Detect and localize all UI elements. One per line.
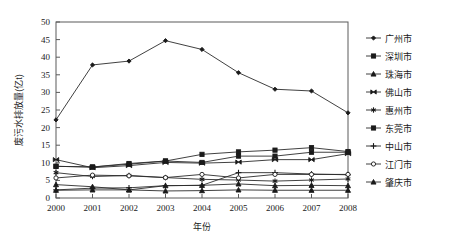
data-point-广州市-2006 — [273, 87, 277, 91]
legend-label: 广州市 — [385, 33, 412, 44]
legend-label: 东莞市 — [385, 123, 412, 134]
x-tick-label: 2005 — [230, 203, 249, 213]
legend-label: 肇庆市 — [385, 177, 412, 188]
data-point-东莞市-2002 — [127, 161, 131, 165]
y-tick-label: 45 — [41, 35, 51, 45]
legend-item-惠州市[interactable]: 惠州市 — [366, 105, 412, 116]
x-tick-label: 2004 — [193, 203, 212, 213]
x-tick-label: 2007 — [303, 203, 322, 213]
data-point-legend-江门市 — [371, 162, 375, 166]
data-point-江门市-2000 — [54, 176, 58, 180]
y-tick-label: 10 — [41, 158, 51, 168]
data-point-江门市-2005 — [236, 176, 240, 180]
data-point-珠海市-2003 — [163, 188, 168, 193]
data-point-深圳市-2007 — [309, 146, 313, 150]
data-point-江门市-2007 — [309, 172, 313, 176]
chart-figure: 05101520253035404550 2000200120022003200… — [0, 0, 453, 247]
data-point-东莞市-2000 — [54, 164, 58, 168]
legend-item-佛山市[interactable]: 佛山市 — [366, 87, 412, 98]
legend-item-江门市[interactable]: 江门市 — [366, 159, 412, 170]
y-tick-label: 50 — [41, 17, 51, 27]
data-point-肇庆市-2001 — [90, 184, 95, 189]
data-point-江门市-2006 — [273, 172, 277, 176]
legend-item-中山市[interactable]: 中山市 — [366, 141, 412, 152]
legend-label: 中山市 — [385, 141, 412, 152]
data-point-肇庆市-2007 — [309, 183, 314, 188]
x-tick-label: 2008 — [339, 203, 358, 213]
y-tick-label: 15 — [41, 140, 51, 150]
data-point-中山市-2005 — [236, 170, 242, 176]
x-tick-label: 2001 — [84, 203, 102, 213]
data-point-legend-东莞市 — [371, 126, 375, 130]
data-point-东莞市-2004 — [200, 160, 204, 164]
data-point-江门市-2003 — [163, 175, 167, 179]
y-tick-label: 25 — [41, 105, 51, 115]
data-point-广州市-2003 — [163, 39, 167, 43]
legend-item-广州市[interactable]: 广州市 — [366, 33, 412, 44]
legend-item-东莞市[interactable]: 东莞市 — [366, 123, 412, 134]
legend-item-深圳市[interactable]: 深圳市 — [366, 51, 412, 62]
series-深圳市 — [54, 146, 350, 170]
data-point-广州市-2007 — [309, 89, 313, 93]
data-point-肇庆市-2006 — [273, 183, 278, 188]
data-point-深圳市-2006 — [273, 148, 277, 152]
data-point-legend-中山市 — [371, 143, 377, 149]
data-point-珠海市-2005 — [236, 187, 241, 192]
data-point-东莞市-2001 — [90, 165, 94, 169]
legend-label: 佛山市 — [385, 87, 412, 98]
data-point-肇庆市-2004 — [200, 183, 205, 188]
series-line-广州市 — [56, 41, 348, 120]
data-point-肇庆市-2000 — [54, 182, 59, 187]
data-point-广州市-2008 — [346, 111, 350, 115]
y-axis-title: 废污水排放量(亿t) — [13, 74, 24, 146]
y-axis-ticks: 05101520253035404550 — [41, 17, 60, 203]
x-tick-label: 2000 — [47, 203, 66, 213]
data-point-江门市-2002 — [127, 174, 131, 178]
data-point-江门市-2001 — [90, 173, 94, 177]
data-point-佛山市-2007 — [309, 158, 314, 162]
y-tick-label: 30 — [41, 87, 51, 97]
data-point-江门市-2004 — [200, 172, 204, 176]
legend-label: 珠海市 — [385, 69, 412, 80]
data-point-东莞市-2007 — [309, 150, 313, 154]
data-point-legend-珠海市 — [371, 72, 376, 77]
data-point-珠海市-2004 — [200, 188, 205, 193]
data-point-东莞市-2008 — [346, 150, 350, 154]
y-tick-label: 40 — [41, 52, 51, 62]
data-point-深圳市-2004 — [200, 152, 204, 156]
series-广州市 — [54, 39, 350, 122]
x-tick-label: 2003 — [157, 203, 176, 213]
data-point-东莞市-2003 — [163, 159, 167, 163]
x-axis-ticks: 200020012002200320042005200620072008 — [47, 194, 358, 213]
data-series-group — [53, 39, 351, 194]
line-chart: 05101520253035404550 2000200120022003200… — [0, 0, 453, 247]
legend-label: 惠州市 — [385, 105, 412, 116]
data-point-肇庆市-2003 — [163, 183, 168, 188]
x-tick-label: 2002 — [120, 203, 138, 213]
data-point-广州市-2005 — [236, 71, 240, 75]
legend-item-肇庆市[interactable]: 肇庆市 — [366, 177, 412, 188]
legend-label: 江门市 — [385, 159, 412, 170]
data-point-珠海市-2006 — [273, 188, 278, 193]
data-point-佛山市-2005 — [236, 160, 241, 164]
data-point-广州市-2002 — [127, 59, 131, 63]
data-point-legend-肇庆市 — [371, 180, 376, 185]
x-tick-label: 2006 — [266, 203, 285, 213]
data-point-legend-深圳市 — [371, 54, 375, 58]
legend-label: 深圳市 — [385, 51, 412, 62]
data-point-肇庆市-2005 — [236, 181, 241, 186]
data-point-珠海市-2008 — [346, 188, 351, 193]
data-point-肇庆市-2008 — [346, 183, 351, 188]
y-tick-label: 35 — [41, 70, 51, 80]
y-tick-label: 20 — [41, 123, 51, 133]
data-point-东莞市-2006 — [273, 154, 277, 158]
data-point-深圳市-2005 — [236, 150, 240, 154]
x-axis-title: 年份 — [193, 221, 211, 232]
legend-item-珠海市[interactable]: 珠海市 — [366, 69, 412, 80]
y-tick-label: 5 — [46, 175, 51, 185]
data-point-legend-广州市 — [371, 36, 375, 40]
data-point-江门市-2008 — [346, 172, 350, 176]
data-point-东莞市-2005 — [236, 154, 240, 158]
data-point-珠海市-2007 — [309, 188, 314, 193]
data-point-legend-佛山市 — [371, 90, 376, 94]
